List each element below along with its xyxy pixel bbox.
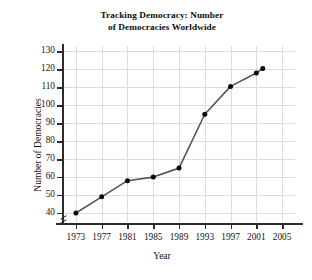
y-tick-mark [57, 69, 63, 70]
y-tick-label: 130 [26, 45, 55, 55]
y-tick-label: 110 [26, 81, 55, 91]
y-tick-label: 80 [26, 135, 55, 145]
y-tick-label: 50 [26, 189, 55, 199]
y-axis-line [62, 44, 64, 224]
chart-figure: Tracking Democracy: Number of Democracie… [0, 0, 312, 280]
gridline-vertical [282, 46, 283, 222]
y-tick-mark [57, 123, 63, 124]
x-tick-mark [179, 224, 180, 229]
x-tick-mark [127, 224, 128, 229]
y-tick-label: 40 [26, 207, 55, 217]
gridline-vertical [256, 46, 257, 222]
y-tick-mark [57, 213, 63, 214]
x-axis-title: Year [56, 251, 268, 261]
y-tick-mark [57, 51, 63, 52]
x-tick-mark [76, 224, 77, 229]
plot-area [63, 46, 295, 222]
x-tick-mark [256, 224, 257, 229]
x-tick-mark [153, 224, 154, 229]
chart-title: Tracking Democracy: Number of Democracie… [56, 10, 268, 33]
chart-title-line-2: of Democracies Worldwide [56, 22, 268, 34]
y-axis-break-icon [59, 214, 68, 226]
x-tick-mark [102, 224, 103, 229]
y-tick-mark [57, 159, 63, 160]
chart-title-line-1: Tracking Democracy: Number [56, 10, 268, 22]
gridline-vertical [205, 46, 206, 222]
gridline-vertical [153, 46, 154, 222]
gridline-vertical [76, 46, 77, 222]
x-tick-mark [282, 224, 283, 229]
y-tick-mark [57, 141, 63, 142]
x-tick-mark [231, 224, 232, 229]
y-tick-mark [57, 105, 63, 106]
gridline-vertical [127, 46, 128, 222]
y-tick-mark [57, 177, 63, 178]
y-tick-label: 60 [26, 171, 55, 181]
gridline-vertical [179, 46, 180, 222]
x-tick-label: 2005 [265, 232, 299, 242]
gridline-vertical [231, 46, 232, 222]
y-tick-label: 90 [26, 117, 55, 127]
y-tick-label: 70 [26, 153, 55, 163]
x-tick-mark [205, 224, 206, 229]
gridline-vertical [102, 46, 103, 222]
y-tick-label: 100 [26, 99, 55, 109]
y-tick-mark [57, 87, 63, 88]
y-tick-mark [57, 195, 63, 196]
y-tick-label: 120 [26, 63, 55, 73]
